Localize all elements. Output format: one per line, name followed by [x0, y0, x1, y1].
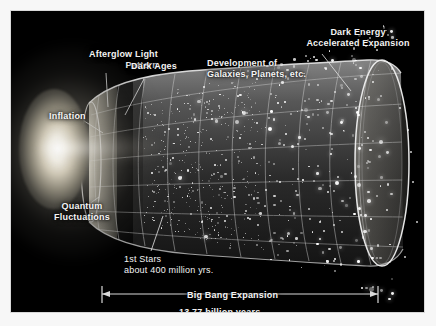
- star-speckle: [243, 237, 244, 238]
- star-point: [209, 214, 210, 215]
- star-point: [217, 172, 219, 174]
- star-point: [268, 117, 270, 119]
- star-point: [218, 194, 220, 196]
- star-point: [233, 191, 234, 192]
- star-speckle: [185, 223, 186, 224]
- star-speckle: [180, 140, 182, 142]
- star-speckle: [198, 189, 199, 190]
- star-speckle: [235, 107, 236, 108]
- star-point: [357, 260, 360, 263]
- star-point: [234, 152, 235, 153]
- star-speckle: [219, 116, 220, 117]
- star-point: [310, 58, 312, 60]
- star-speckle: [224, 220, 226, 222]
- star-speckle: [224, 114, 225, 115]
- star-point: [355, 101, 357, 103]
- star-point: [146, 212, 147, 213]
- star-point: [293, 212, 296, 215]
- star-point: [343, 130, 345, 132]
- star-point: [273, 195, 276, 198]
- star-point: [214, 164, 216, 166]
- star-speckle: [174, 187, 175, 188]
- star-speckle: [202, 129, 204, 131]
- star-speckle: [218, 110, 219, 111]
- star-point: [296, 194, 299, 197]
- star-point: [328, 248, 330, 250]
- star-point: [339, 246, 342, 249]
- star-speckle: [237, 130, 238, 131]
- star-point: [372, 140, 374, 142]
- star-point: [237, 156, 239, 158]
- star-speckle: [228, 98, 229, 99]
- star-speckle: [202, 207, 203, 208]
- star-point: [151, 104, 152, 105]
- star-point: [253, 197, 256, 200]
- star-point: [206, 117, 207, 118]
- star-point: [197, 100, 201, 104]
- star-point: [221, 124, 222, 125]
- star-speckle: [244, 126, 245, 127]
- star-speckle: [212, 140, 213, 141]
- star-point: [270, 259, 272, 261]
- star-point: [238, 162, 239, 163]
- star-point: [161, 121, 162, 122]
- star-point: [334, 258, 336, 260]
- star-point: [340, 121, 343, 124]
- star-speckle: [190, 198, 191, 199]
- star-point: [203, 86, 205, 88]
- star-speckle: [148, 196, 149, 197]
- star-speckle: [164, 149, 165, 150]
- star-point: [366, 162, 368, 164]
- label-dark-energy: Dark Energy Accelerated Expansion: [279, 27, 424, 49]
- star-speckle: [205, 216, 206, 217]
- star-point: [178, 220, 179, 221]
- star-speckle: [218, 85, 219, 86]
- star-point: [218, 105, 220, 107]
- star-point: [284, 101, 287, 104]
- star-speckle: [200, 238, 201, 239]
- star-point: [177, 134, 179, 136]
- star-speckle: [239, 151, 240, 152]
- star-point: [389, 261, 392, 264]
- star-speckle: [202, 180, 203, 181]
- star-point: [276, 180, 278, 182]
- star-point: [151, 172, 153, 174]
- star-speckle: [166, 211, 167, 212]
- star-speckle: [201, 216, 202, 217]
- star-point: [330, 100, 332, 102]
- star-point: [353, 213, 355, 215]
- star-speckle: [218, 232, 219, 233]
- star-speckle: [254, 190, 255, 191]
- star-point: [169, 162, 172, 165]
- star-speckle: [143, 137, 144, 138]
- star-point: [227, 136, 229, 138]
- star-point: [302, 182, 303, 183]
- star-point: [244, 107, 245, 108]
- star-point: [370, 247, 373, 250]
- star-speckle: [211, 114, 212, 115]
- star-speckle: [241, 110, 242, 111]
- star-point: [280, 200, 282, 202]
- star-point: [201, 201, 203, 203]
- star-outside-mouth: [412, 181, 414, 183]
- star-speckle: [152, 183, 153, 184]
- star-speckle: [260, 216, 261, 217]
- star-point: [347, 159, 349, 161]
- star-speckle: [247, 181, 248, 182]
- star-speckle: [167, 209, 168, 210]
- star-point: [245, 210, 247, 212]
- star-speckle: [212, 175, 213, 176]
- star-point: [337, 176, 339, 178]
- star-point: [331, 59, 334, 62]
- star-point: [279, 214, 281, 216]
- star-speckle: [261, 247, 262, 248]
- star-point: [174, 207, 175, 208]
- star-point: [289, 259, 290, 260]
- star-speckle: [249, 87, 250, 88]
- star-point: [292, 184, 293, 185]
- star-point: [259, 111, 260, 112]
- star-speckle: [147, 207, 148, 208]
- star-point: [361, 137, 363, 139]
- star-point: [191, 117, 193, 119]
- star-point: [220, 175, 223, 178]
